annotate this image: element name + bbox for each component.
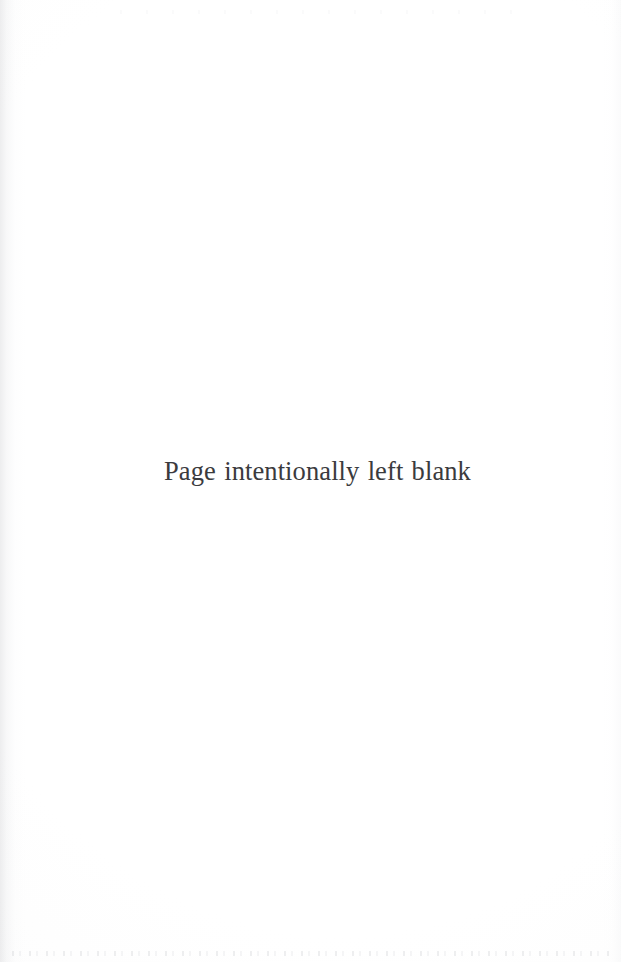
- top-scan-artifact: [120, 10, 531, 14]
- page-intentionally-left-blank-notice: Page intentionally left blank: [0, 455, 621, 487]
- scanned-page: Page intentionally left blank: [0, 0, 621, 962]
- bottom-scan-artifact: [12, 951, 611, 956]
